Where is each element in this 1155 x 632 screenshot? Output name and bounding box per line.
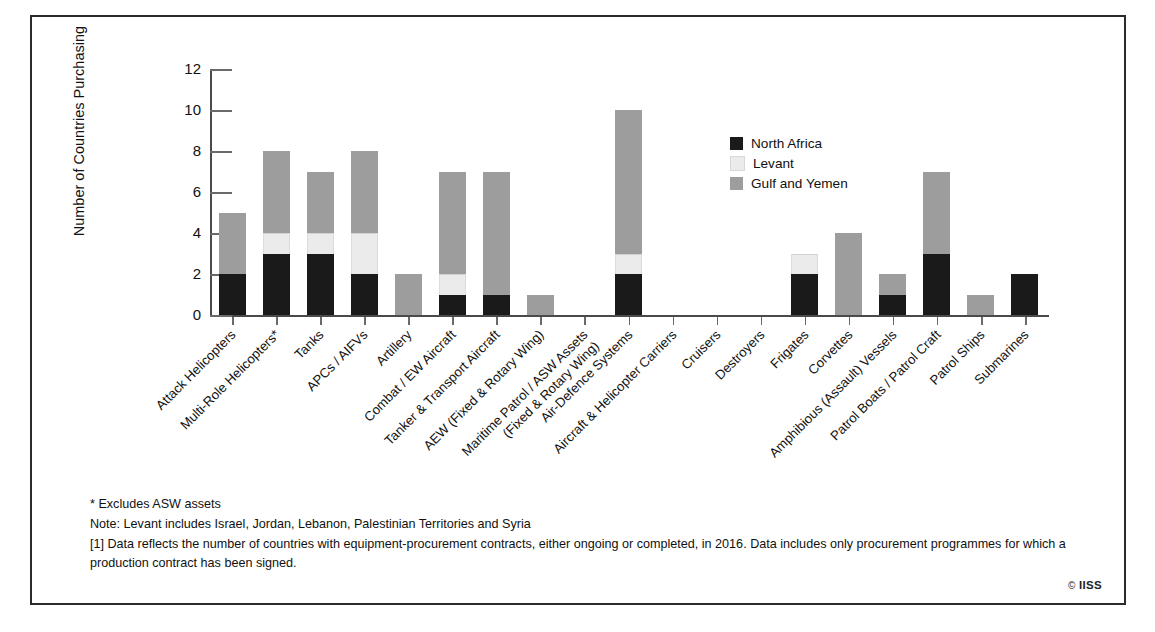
x-tick <box>761 317 763 325</box>
bar-segment-north-africa <box>351 274 378 315</box>
y-tick-label: 12 <box>184 60 201 77</box>
bar-segment-gulf-and-yemen <box>835 233 862 315</box>
bar-9[interactable] <box>615 110 642 315</box>
chart-figure: Number of Countries Purchasing 024681012… <box>30 15 1126 605</box>
legend-item: Levant <box>730 155 848 172</box>
x-tick <box>364 317 366 325</box>
legend-item: Gulf and Yemen <box>730 175 848 192</box>
bar-1[interactable] <box>263 151 290 315</box>
bar-segment-north-africa <box>879 295 906 316</box>
bar-segment-levant <box>307 233 334 254</box>
bar-segment-north-africa <box>483 295 510 316</box>
plot-area: 024681012 Attack HelicoptersMulti-Role H… <box>210 69 1047 315</box>
bar-segment-gulf-and-yemen <box>219 213 246 275</box>
bar-segment-gulf-and-yemen <box>527 295 554 316</box>
legend-swatch <box>730 177 743 190</box>
bar-segment-north-africa <box>791 274 818 315</box>
x-tick <box>849 317 851 325</box>
y-tick: 10 <box>210 110 232 112</box>
bar-segment-north-africa <box>263 254 290 316</box>
x-tick <box>893 317 895 325</box>
bar-segment-levant <box>791 254 818 275</box>
note-asterisk: * Excludes ASW assets <box>90 495 1100 514</box>
bar-segment-north-africa <box>923 254 950 316</box>
x-tick-label: Frigates <box>767 327 812 372</box>
bar-segment-levant <box>439 274 466 295</box>
x-tick <box>805 317 807 325</box>
bar-segment-north-africa <box>219 274 246 315</box>
y-tick-label: 0 <box>193 306 201 323</box>
bar-segment-gulf-and-yemen <box>263 151 290 233</box>
chart-legend: North AfricaLevantGulf and Yemen <box>730 135 848 195</box>
bar-segment-gulf-and-yemen <box>307 172 334 234</box>
legend-swatch <box>730 156 745 171</box>
bar-0[interactable] <box>219 213 246 316</box>
bar-18[interactable] <box>1011 274 1038 315</box>
x-tick <box>937 317 939 325</box>
bar-segment-north-africa <box>439 295 466 316</box>
y-tick-label: 2 <box>193 265 201 282</box>
bar-segment-gulf-and-yemen <box>879 274 906 295</box>
x-tick <box>232 317 234 325</box>
bar-2[interactable] <box>307 172 334 316</box>
y-tick: 8 <box>210 151 232 153</box>
bar-6[interactable] <box>483 172 510 316</box>
bar-13[interactable] <box>791 254 818 316</box>
legend-label: Gulf and Yemen <box>751 176 848 191</box>
x-tick <box>673 317 675 325</box>
bar-4[interactable] <box>395 274 422 315</box>
y-tick-label: 6 <box>193 183 201 200</box>
y-tick-label: 4 <box>193 224 201 241</box>
bar-17[interactable] <box>967 295 994 316</box>
bar-14[interactable] <box>835 233 862 315</box>
bar-segment-north-africa <box>307 254 334 316</box>
y-axis-title: Number of Countries Purchasing <box>70 16 88 246</box>
note-levant: Note: Levant includes Israel, Jordan, Le… <box>90 515 1100 534</box>
bar-segment-north-africa <box>615 274 642 315</box>
x-tick-label: Attack Helicopters <box>153 327 239 413</box>
legend-label: Levant <box>753 156 794 171</box>
bar-3[interactable] <box>351 151 378 315</box>
x-tick-label: Artillery <box>373 327 415 369</box>
bar-segment-gulf-and-yemen <box>351 151 378 233</box>
bar-7[interactable] <box>527 295 554 316</box>
bar-16[interactable] <box>923 172 950 316</box>
bar-segment-gulf-and-yemen <box>923 172 950 254</box>
x-tick <box>496 317 498 325</box>
y-tick-label: 10 <box>184 101 201 118</box>
x-tick <box>584 317 586 325</box>
x-tick <box>717 317 719 325</box>
bar-5[interactable] <box>439 172 466 316</box>
legend-swatch <box>730 137 743 150</box>
copyright-symbol: © <box>1068 580 1076 591</box>
bar-segment-gulf-and-yemen <box>483 172 510 295</box>
y-tick-label: 8 <box>193 142 201 159</box>
x-tick-label: Tanks <box>292 327 327 362</box>
x-tick <box>408 317 410 325</box>
legend-label: North Africa <box>751 136 822 151</box>
bar-segment-gulf-and-yemen <box>439 172 466 275</box>
x-tick <box>540 317 542 325</box>
bar-15[interactable] <box>879 274 906 315</box>
bar-segment-levant <box>351 233 378 274</box>
bar-segment-gulf-and-yemen <box>967 295 994 316</box>
x-tick <box>1025 317 1027 325</box>
bar-segment-gulf-and-yemen <box>395 274 422 315</box>
bar-segment-gulf-and-yemen <box>615 110 642 254</box>
y-tick: 6 <box>210 192 232 194</box>
x-tick <box>276 317 278 325</box>
note-footnote: [1] Data reflects the number of countrie… <box>90 535 1100 573</box>
y-tick: 0 <box>210 315 232 317</box>
x-tick <box>981 317 983 325</box>
notes-block: * Excludes ASW assets Note: Levant inclu… <box>90 495 1100 575</box>
x-tick <box>629 317 631 325</box>
bar-segment-levant <box>263 233 290 254</box>
x-tick <box>452 317 454 325</box>
legend-item: North Africa <box>730 135 848 152</box>
y-tick: 12 <box>210 69 232 71</box>
x-tick <box>320 317 322 325</box>
bar-segment-north-africa <box>1011 274 1038 315</box>
copyright-text: IISS <box>1079 579 1102 591</box>
copyright-mark: © IISS <box>1068 579 1102 591</box>
bar-segment-levant <box>615 254 642 275</box>
